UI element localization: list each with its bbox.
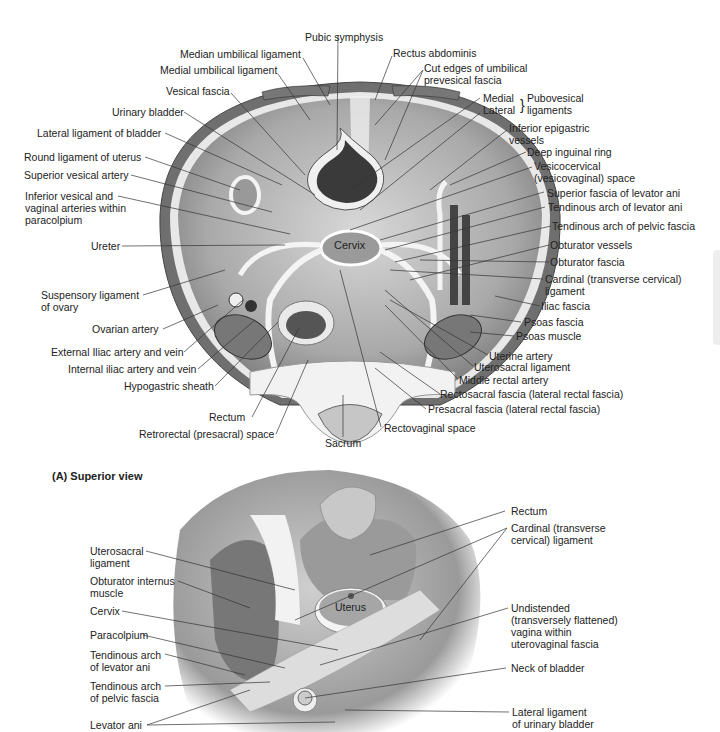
label-uterosacral-ligament-top: Uterosacral ligament	[474, 361, 570, 373]
label-pubovesical-lateral: Lateral	[483, 104, 515, 116]
label-inferior-epigastric-2: vessels	[509, 134, 544, 146]
label-hypogastric-sheath: Hypogastric sheath	[124, 380, 214, 392]
label-suspensory-1: Suspensory ligament	[41, 289, 139, 301]
label-medial-umbilical-ligament: Medial umbilical ligament	[160, 64, 277, 76]
label-middle-rectal-artery: Middle rectal artery	[459, 374, 548, 386]
label-pubovesical-medial: Medial	[483, 92, 514, 104]
label-cut-edges-1: Cut edges of umbilical	[424, 62, 527, 74]
label-inferior-vesical-1: Inferior vesical and	[25, 190, 113, 202]
label-obturator-internus-2: muscle	[90, 587, 123, 599]
label-cardinal-1: Cardinal (transverse cervical)	[545, 273, 682, 285]
label-vesicocervical-1: Vesicocervical	[534, 160, 601, 172]
label-obturator-internus-1: Obturator internus	[90, 575, 175, 587]
label-urinary-bladder: Urinary bladder	[112, 106, 184, 118]
label-undistended-2: (transversely flattened)	[511, 614, 618, 626]
label-suspensory-2: of ovary	[41, 301, 78, 313]
label-tendinous-arch-pelvic-fascia: Tendinous arch of pelvic fascia	[552, 220, 695, 232]
label-rectovaginal-space: Rectovaginal space	[384, 422, 476, 434]
label-cut-edges-2: prevesical fascia	[424, 74, 502, 86]
label-tendinous-arch-pelvic-1: Tendinous arch	[90, 680, 161, 692]
label-ureter: Ureter	[91, 240, 120, 252]
label-retrorectal-space: Retrorectal (presacral) space	[139, 428, 274, 440]
label-deep-inguinal-ring: Deep inguinal ring	[527, 146, 612, 158]
pubovesical-brace-icon: }	[520, 92, 525, 118]
label-neck-of-bladder: Neck of bladder	[511, 662, 585, 674]
uterus-center-label: Uterus	[335, 601, 366, 613]
label-cervix-bottom: Cervix	[90, 605, 120, 617]
label-pubovesical-1: Pubovesical	[527, 92, 584, 104]
label-psoas-muscle: Psoas muscle	[516, 330, 581, 342]
label-undistended-3: vagina within	[511, 626, 572, 638]
label-psoas-fascia: Psoas fascia	[524, 316, 584, 328]
label-superior-fascia-levator-ani: Superior fascia of levator ani	[547, 187, 680, 199]
label-paracolpium: Paracolpium	[90, 629, 148, 641]
label-lateral-ligament-bladder-2: of urinary bladder	[512, 718, 594, 730]
label-iliac-fascia: Iliac fascia	[541, 300, 590, 312]
label-cardinal-2: ligament	[545, 285, 585, 297]
label-external-iliac: External Iliac artery and vein	[51, 346, 183, 358]
label-tendinous-arch-levator-ani: Tendinous arch of levator ani	[548, 201, 682, 213]
label-lateral-ligament-bladder-1: Lateral ligament	[512, 706, 587, 718]
label-inferior-epigastric-1: Inferior epigastric	[509, 122, 590, 134]
label-inferior-vesical-2: vaginal arteries within	[25, 202, 126, 214]
label-uterosacral-1: Uterosacral	[90, 545, 144, 557]
label-obturator-fascia: Obturator fascia	[550, 256, 625, 268]
label-presacral-fascia: Presacral fascia (lateral rectal fascia)	[428, 403, 600, 415]
label-ovarian-artery: Ovarian artery	[92, 323, 159, 335]
label-internal-iliac: Internal iliac artery and vein	[68, 363, 196, 375]
label-undistended-1: Undistended	[511, 602, 570, 614]
label-inferior-vesical-3: paracolpium	[25, 214, 82, 226]
sacrum-label: Sacrum	[325, 437, 361, 449]
label-cardinal-bottom-2: cervical) ligament	[511, 534, 593, 546]
label-pubic-symphysis: Pubic symphysis	[305, 31, 383, 43]
label-vesical-fascia: Vesical fascia	[166, 85, 230, 97]
label-rectosacral-fascia: Rectosacral fascia (lateral rectal fasci…	[440, 388, 623, 400]
label-cardinal-bottom-1: Cardinal (transverse	[511, 522, 606, 534]
label-obturator-vessels: Obturator vessels	[550, 239, 632, 251]
label-median-umbilical-ligament: Median umbilical ligament	[180, 48, 301, 60]
panel-caption: (A) Superior view	[52, 470, 142, 482]
label-pubovesical-2: ligaments	[527, 104, 572, 116]
label-rectus-abdominis: Rectus abdominis	[393, 47, 476, 59]
label-tendinous-arch-pelvic-2: of pelvic fascia	[90, 692, 159, 704]
label-uterosacral-2: ligament	[90, 557, 130, 569]
label-superior-vesical-artery: Superior vesical artery	[24, 169, 128, 181]
label-round-ligament-of-uterus: Round ligament of uterus	[24, 151, 141, 163]
label-rectum-bottom: Rectum	[511, 505, 547, 517]
cervix-center-label: Cervix	[334, 239, 365, 251]
label-vesicocervical-2: (vesicovaginal) space	[534, 172, 635, 184]
page-edge-tab	[713, 250, 720, 345]
label-levator-ani: Levator ani	[90, 719, 142, 731]
label-undistended-4: uterovaginal fascia	[511, 638, 599, 650]
label-tendinous-arch-levator-2: of levator ani	[90, 661, 150, 673]
label-tendinous-arch-levator-1: Tendinous arch	[90, 649, 161, 661]
label-lateral-ligament-of-bladder: Lateral ligament of bladder	[37, 127, 161, 139]
label-rectum-top: Rectum	[209, 411, 245, 423]
